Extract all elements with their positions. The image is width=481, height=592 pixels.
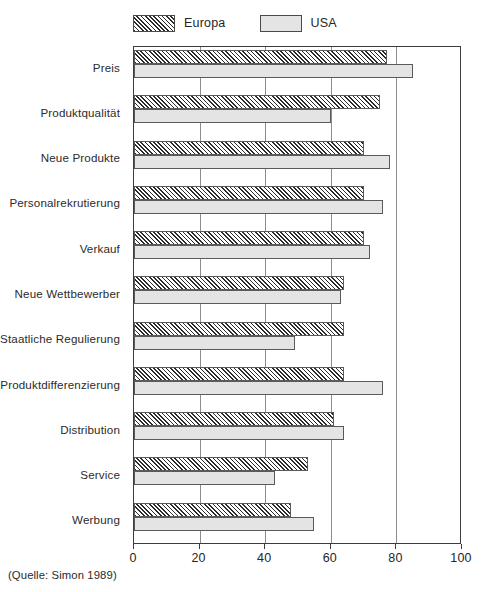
- x-axis-labels: 020406080100: [0, 551, 481, 571]
- bar-europa: [134, 231, 364, 245]
- bar-europa: [134, 503, 291, 517]
- bar-usa: [134, 336, 295, 350]
- bar-group: [134, 47, 460, 92]
- x-axis-tick-label: 80: [388, 551, 402, 565]
- y-axis-label: Neue Produkte: [41, 151, 120, 164]
- y-axis-labels: PreisProduktqualitätNeue ProduktePersona…: [0, 46, 128, 544]
- legend-label-europa: Europa: [184, 16, 226, 30]
- bar-usa: [134, 200, 383, 214]
- bar-europa: [134, 50, 387, 64]
- bar-usa: [134, 155, 390, 169]
- bar-usa: [134, 381, 383, 395]
- y-axis-label: Verkauf: [80, 242, 120, 255]
- chart-plot-area: [133, 46, 461, 544]
- y-axis-label: Produktdifferenzierung: [0, 378, 120, 391]
- bar-europa: [134, 141, 364, 155]
- x-axis-tick-label: 60: [323, 551, 337, 565]
- bar-group: [134, 228, 460, 273]
- legend-label-usa: USA: [311, 16, 337, 30]
- bar-europa: [134, 95, 380, 109]
- bar-usa: [134, 517, 314, 531]
- y-axis-label: Produktqualität: [40, 106, 120, 119]
- y-axis-label: Service: [80, 468, 120, 481]
- bar-group: [134, 364, 460, 409]
- bar-usa: [134, 109, 331, 123]
- x-axis-tick-label: 100: [450, 551, 471, 565]
- x-axis-tick-label: 20: [191, 551, 205, 565]
- chart-bars: [134, 47, 460, 543]
- bar-group: [134, 138, 460, 183]
- bar-group: [134, 409, 460, 454]
- bar-europa: [134, 412, 334, 426]
- bar-group: [134, 273, 460, 318]
- x-axis-tick-label: 40: [257, 551, 271, 565]
- source-note: (Quelle: Simon 1989): [8, 569, 117, 581]
- x-axis-tick: [461, 544, 462, 549]
- y-axis-label: Preis: [93, 61, 120, 74]
- x-axis-tick: [199, 544, 200, 549]
- legend-entry-europa: Europa: [133, 15, 226, 32]
- y-axis-label: Distribution: [60, 423, 120, 436]
- bar-group: [134, 183, 460, 228]
- bar-group: [134, 319, 460, 364]
- chart-legend: Europa USA: [0, 10, 481, 36]
- bar-usa: [134, 245, 370, 259]
- x-axis-tick: [264, 544, 265, 549]
- bar-group: [134, 92, 460, 137]
- x-axis-tick: [330, 544, 331, 549]
- bar-europa: [134, 186, 364, 200]
- bar-group: [134, 454, 460, 499]
- bar-group: [134, 500, 460, 545]
- bar-europa: [134, 367, 344, 381]
- legend-entry-usa: USA: [260, 15, 337, 32]
- bar-europa: [134, 322, 344, 336]
- bar-usa: [134, 471, 275, 485]
- legend-swatch-usa-icon: [260, 15, 302, 32]
- y-axis-label: Werbung: [72, 513, 120, 526]
- y-axis-label: Staatliche Regulierung: [0, 332, 120, 345]
- x-axis-tick-label: 0: [129, 551, 136, 565]
- x-axis-ticks: [133, 544, 461, 550]
- y-axis-label: Neue Wettbewerber: [15, 287, 120, 300]
- y-axis-label: Personalrekrutierung: [9, 196, 120, 209]
- x-axis-tick: [395, 544, 396, 549]
- x-axis-tick: [133, 544, 134, 549]
- bar-usa: [134, 426, 344, 440]
- legend-swatch-europa-icon: [133, 15, 175, 32]
- bar-usa: [134, 290, 341, 304]
- bar-usa: [134, 64, 413, 78]
- bar-europa: [134, 276, 344, 290]
- bar-europa: [134, 457, 308, 471]
